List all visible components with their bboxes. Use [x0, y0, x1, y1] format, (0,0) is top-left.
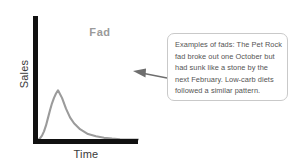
callout-box: Examples of fads: The Pet Rock fad broke…	[167, 33, 288, 101]
fad-curve-path	[38, 90, 138, 140]
chart-title: Fad	[70, 26, 130, 38]
callout-line: had sunk like a stone by the	[175, 62, 282, 74]
x-axis-label: Time	[58, 148, 114, 160]
figure-canvas: Sales Time Fad Examples of fads: The Pet…	[0, 0, 295, 168]
arrow-left-icon	[133, 69, 167, 79]
callout-line: fad broke out one October but	[175, 51, 282, 63]
callout-line: next February. Low-carb diets	[175, 74, 282, 86]
x-axis	[33, 139, 138, 144]
y-axis	[33, 16, 38, 144]
callout-line: followed a similar pattern.	[175, 85, 282, 97]
callout-text: Examples of fads: The Pet Rock fad broke…	[175, 39, 282, 97]
callout-line: Examples of fads: The Pet Rock	[175, 39, 282, 51]
y-axis-label: Sales	[18, 44, 30, 104]
